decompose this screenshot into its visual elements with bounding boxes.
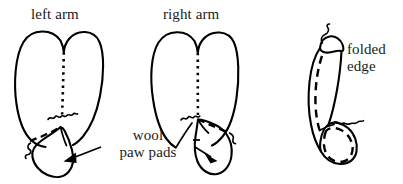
left-arm-outline (15, 31, 103, 147)
diagram-canvas: left arm right arm folded edge wool paw … (0, 0, 403, 184)
folded-edge-cuff (320, 36, 343, 52)
label-paw-pads-line: paw pads (105, 144, 191, 161)
left-arm-paw-pad (32, 127, 73, 177)
right-arm-paw-pad (195, 120, 232, 175)
label-wool-paw-pads: wool paw pads (105, 127, 191, 161)
folded-edge-yarn-squiggle (335, 121, 364, 125)
figure-left-arm (15, 31, 103, 177)
mitten-pattern-illustration (0, 0, 403, 184)
left-arm-yarn-curl (25, 143, 30, 159)
wool-paw-pads-arrow-left-head (64, 153, 77, 164)
label-wool-line: wool (105, 127, 191, 144)
left-arm-center-seam (62, 53, 64, 119)
wool-paw-pads-arrow-right-head (205, 154, 218, 164)
label-left-arm: left arm (31, 6, 79, 23)
wool-paw-pads-arrow-right-shaft (195, 147, 211, 157)
folded-edge-fold-line (315, 56, 322, 130)
folded-edge-pad-stitch-line (324, 128, 353, 162)
folded-edge-tube-right-side (329, 51, 342, 125)
label-folded-edge: folded edge (347, 41, 403, 75)
label-right-arm: right arm (163, 6, 219, 23)
label-folded-edge-line1: folded edge (347, 41, 403, 75)
